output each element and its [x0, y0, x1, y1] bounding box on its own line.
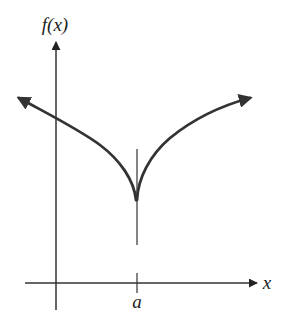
tick-label-a: a — [132, 291, 142, 312]
curve-left-branch — [19, 98, 136, 200]
y-axis-label: f(x) — [42, 14, 68, 36]
function-graph: f(x) x a — [0, 0, 283, 325]
curve-right-branch — [137, 98, 250, 200]
diagram-canvas: f(x) x a — [0, 0, 283, 325]
x-axis-label: x — [262, 272, 272, 293]
